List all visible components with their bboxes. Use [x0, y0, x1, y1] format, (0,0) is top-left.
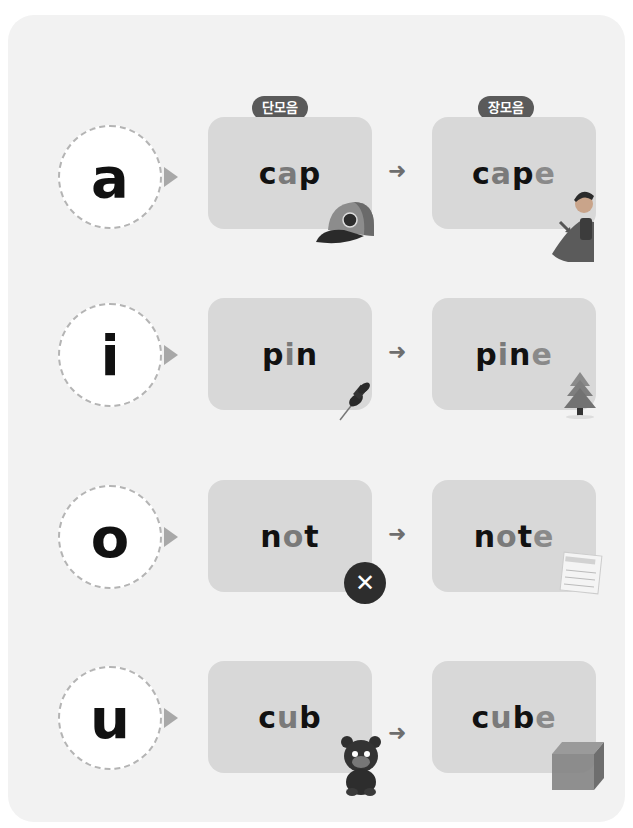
vowel-letter: i: [498, 337, 509, 372]
letter: c: [258, 700, 277, 735]
vowel-letter: o: [283, 519, 305, 554]
letter: p: [475, 337, 497, 372]
vowel-circle: a: [58, 125, 162, 229]
silent-e-letter: e: [533, 519, 554, 554]
letter: n: [260, 519, 282, 554]
x-mark-icon: ✕: [344, 562, 386, 604]
arrow-right-icon: ➜: [388, 339, 406, 364]
letter: t: [518, 519, 533, 554]
letter: p: [299, 156, 321, 191]
silent-e-letter: e: [535, 156, 556, 191]
letter: c: [472, 700, 491, 735]
letter: c: [472, 156, 491, 191]
vowel-circle: o: [58, 485, 162, 589]
superhero-cape-icon: [548, 188, 598, 264]
note-paper-icon: [558, 550, 604, 596]
vowel-letter: u: [490, 700, 512, 735]
letter: p: [512, 156, 534, 191]
vowel-circle: i: [58, 303, 162, 407]
vowel-letter: a: [278, 156, 299, 191]
vowel-letter: i: [284, 337, 295, 372]
silent-e-letter: e: [531, 337, 552, 372]
pointer-triangle-icon: [164, 167, 178, 187]
letter: p: [262, 337, 284, 372]
vowel-letter: o: [496, 519, 518, 554]
letter: n: [509, 337, 531, 372]
pointer-triangle-icon: [164, 345, 178, 365]
arrow-right-icon: ➜: [388, 521, 406, 546]
letter: b: [299, 700, 321, 735]
vowel-letter: a: [491, 156, 512, 191]
pointer-triangle-icon: [164, 708, 178, 728]
vowel-circle: u: [58, 666, 162, 770]
pine-tree-icon: [562, 370, 598, 422]
vowel-letter: u: [277, 700, 299, 735]
pointer-triangle-icon: [164, 527, 178, 547]
arrow-right-icon: ➜: [388, 158, 406, 183]
letter: b: [513, 700, 535, 735]
cap-icon: [314, 196, 376, 250]
arrow-right-icon: ➜: [388, 720, 406, 745]
letter: c: [259, 156, 278, 191]
silent-e-letter: e: [535, 700, 556, 735]
letter: t: [304, 519, 319, 554]
cube-icon: [550, 740, 606, 792]
bear-cub-icon: [338, 734, 384, 796]
letter: n: [474, 519, 496, 554]
letter: n: [296, 337, 318, 372]
pushpin-icon: [336, 380, 372, 422]
